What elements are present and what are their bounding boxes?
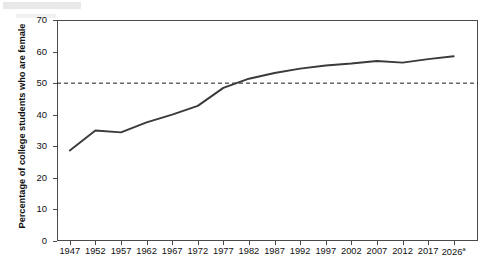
x-tick-mark — [275, 241, 276, 245]
scan-artifact-band — [3, 2, 81, 9]
data-series-line — [57, 20, 478, 241]
x-tick-mark — [351, 241, 352, 245]
x-tick-mark — [377, 241, 378, 245]
x-tick-mark — [326, 241, 327, 245]
x-tick-mark — [300, 241, 301, 245]
x-tick-mark — [172, 241, 173, 245]
x-tick-mark — [249, 241, 250, 245]
x-tick-label: 2026a — [437, 246, 471, 257]
y-tick-label: 60 — [21, 46, 47, 57]
y-tick-label: 10 — [21, 203, 47, 214]
x-tick-mark — [454, 241, 455, 245]
series-polyline — [70, 56, 454, 150]
y-tick-label: 40 — [21, 109, 47, 120]
y-tick-mark — [53, 241, 57, 242]
x-tick-mark — [121, 241, 122, 245]
chart-figure: Percentage of college students who are f… — [0, 0, 498, 274]
x-tick-mark — [198, 241, 199, 245]
y-tick-label: 30 — [21, 140, 47, 151]
x-tick-mark — [403, 241, 404, 245]
y-tick-label: 50 — [21, 77, 47, 88]
x-tick-mark — [428, 241, 429, 245]
x-tick-mark — [223, 241, 224, 245]
y-tick-label: 20 — [21, 172, 47, 183]
y-tick-label: 0 — [21, 235, 47, 246]
x-tick-mark — [95, 241, 96, 245]
x-tick-mark — [147, 241, 148, 245]
x-tick-mark — [70, 241, 71, 245]
y-tick-label: 70 — [21, 14, 47, 25]
